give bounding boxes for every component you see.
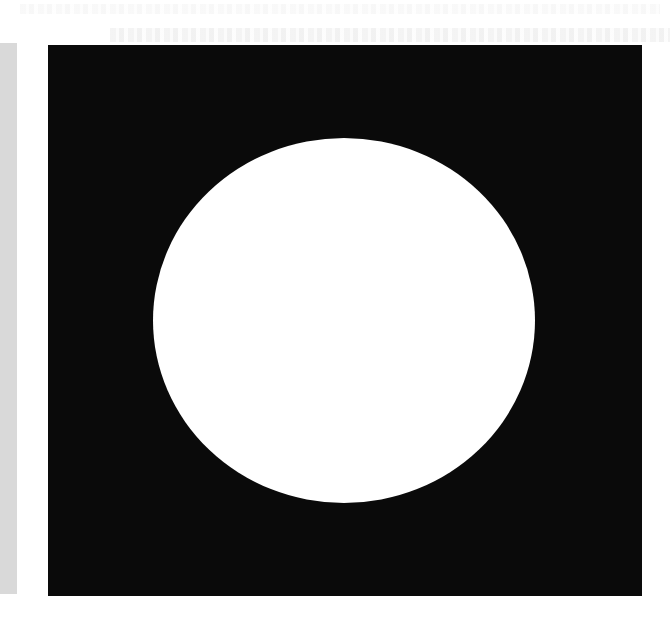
figure-black-square (48, 45, 642, 596)
bleed-through-text-line (20, 4, 660, 14)
bleed-through-text-line (110, 28, 670, 42)
page-margin-strip (0, 43, 17, 594)
figure-white-circle (153, 138, 535, 503)
